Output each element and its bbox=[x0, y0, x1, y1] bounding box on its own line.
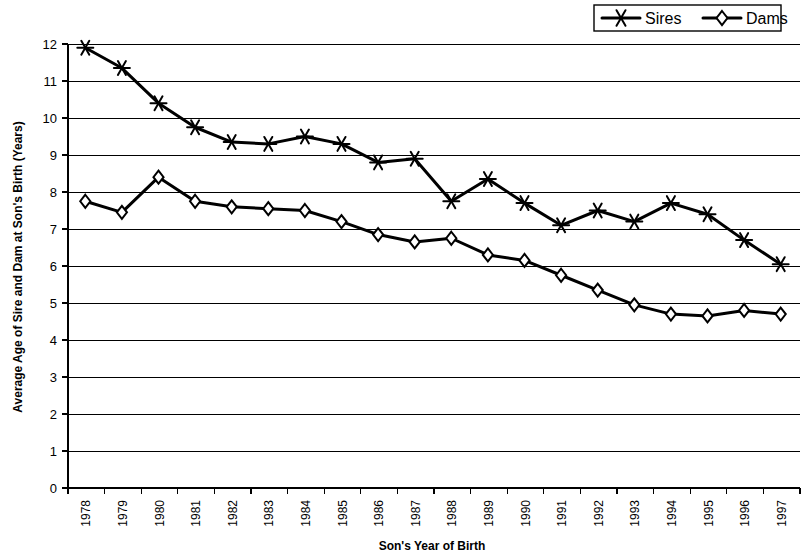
diamond-marker-shape bbox=[300, 204, 310, 217]
y-axis-title: Average Age of Sire and Dam at Son's Bir… bbox=[11, 121, 25, 412]
series-line-sires bbox=[85, 48, 780, 264]
x-tick-label: 1991 bbox=[555, 500, 569, 527]
diamond-marker-shape bbox=[666, 308, 676, 321]
y-tick-label: 3 bbox=[50, 370, 57, 385]
x-axis-title: Son's Year of Birth bbox=[379, 539, 486, 553]
series-markers-dams bbox=[80, 171, 786, 323]
y-tick-label: 0 bbox=[50, 481, 57, 496]
series-lines-group bbox=[85, 48, 780, 316]
data-point bbox=[702, 309, 712, 322]
x-tick-label: 1986 bbox=[372, 500, 386, 527]
y-tick-label: 8 bbox=[50, 185, 57, 200]
data-point bbox=[556, 269, 566, 282]
x-tick-label: 1992 bbox=[592, 500, 606, 527]
data-point bbox=[663, 196, 679, 210]
diamond-marker-shape bbox=[190, 195, 200, 208]
diamond-marker-shape bbox=[702, 309, 712, 322]
x-tick-label: 1982 bbox=[226, 500, 240, 527]
diamond-marker-shape bbox=[776, 308, 786, 321]
diamond-marker-shape bbox=[336, 215, 346, 228]
diamond-marker-shape bbox=[483, 248, 493, 261]
data-point bbox=[260, 137, 276, 151]
legend: Sires Dams bbox=[594, 5, 788, 31]
data-point bbox=[483, 248, 493, 261]
diamond-marker-shape bbox=[263, 202, 273, 215]
x-tick-label: 1985 bbox=[336, 500, 350, 527]
x-tick-label: 1996 bbox=[738, 500, 752, 527]
data-point bbox=[227, 200, 237, 213]
x-tick-label: 1987 bbox=[409, 500, 423, 527]
data-point bbox=[224, 135, 240, 149]
y-tick-label: 5 bbox=[50, 296, 57, 311]
data-point bbox=[300, 204, 310, 217]
x-tick-label: 1988 bbox=[445, 500, 459, 527]
x-tick-label: 1979 bbox=[116, 500, 130, 527]
y-tick-marks-group bbox=[62, 44, 68, 488]
data-point bbox=[190, 195, 200, 208]
x-tick-label: 1995 bbox=[702, 500, 716, 527]
y-tick-label: 1 bbox=[50, 444, 57, 459]
diamond-marker-shape bbox=[410, 235, 420, 248]
x-tick-label: 1984 bbox=[299, 500, 313, 527]
line-chart: 0123456789101112 19781979198019811982198… bbox=[0, 0, 805, 560]
data-point bbox=[626, 215, 642, 229]
diamond-marker-shape bbox=[373, 228, 383, 241]
y-tick-label: 10 bbox=[43, 111, 57, 126]
x-tick-label: 1993 bbox=[628, 500, 642, 527]
x-tick-marks-group bbox=[68, 488, 800, 494]
data-point bbox=[80, 195, 90, 208]
data-point bbox=[370, 155, 386, 169]
x-tick-labels-group: 1978197919801981198219831984198519861987… bbox=[79, 500, 788, 527]
data-point bbox=[334, 137, 350, 151]
x-tick-label: 1980 bbox=[153, 500, 167, 527]
x-tick-label: 1989 bbox=[482, 500, 496, 527]
data-point bbox=[590, 204, 606, 218]
data-point bbox=[77, 41, 93, 55]
diamond-marker-shape bbox=[80, 195, 90, 208]
diamond-marker-shape bbox=[446, 232, 456, 245]
data-point bbox=[519, 254, 529, 267]
data-point bbox=[593, 284, 603, 297]
series-line-dams bbox=[85, 177, 780, 316]
y-tick-label: 12 bbox=[43, 37, 57, 52]
x-tick-label: 1981 bbox=[189, 500, 203, 527]
data-point bbox=[776, 308, 786, 321]
x-tick-label: 1983 bbox=[262, 500, 276, 527]
data-point bbox=[336, 215, 346, 228]
y-tick-label: 7 bbox=[50, 222, 57, 237]
x-tick-label: 1994 bbox=[665, 500, 679, 527]
y-tick-label: 9 bbox=[50, 148, 57, 163]
diamond-marker-shape bbox=[629, 298, 639, 311]
diamond-marker-shape bbox=[593, 284, 603, 297]
y-tick-label: 6 bbox=[50, 259, 57, 274]
x-tick-label: 1997 bbox=[775, 500, 789, 527]
data-point bbox=[410, 235, 420, 248]
chart-container: 0123456789101112 19781979198019811982198… bbox=[0, 0, 805, 560]
gridlines-group bbox=[68, 44, 800, 451]
y-tick-label: 11 bbox=[44, 74, 58, 89]
series-markers-sires bbox=[77, 41, 788, 271]
y-tick-labels-group: 0123456789101112 bbox=[43, 37, 57, 496]
legend-label-dams: Dams bbox=[746, 10, 788, 27]
data-point bbox=[666, 308, 676, 321]
data-point bbox=[263, 202, 273, 215]
diamond-marker-shape bbox=[556, 269, 566, 282]
y-tick-label: 4 bbox=[50, 333, 57, 348]
x-tick-label: 1978 bbox=[79, 500, 93, 527]
data-point bbox=[446, 232, 456, 245]
diamond-marker-shape bbox=[519, 254, 529, 267]
data-point bbox=[739, 304, 749, 317]
data-point bbox=[373, 228, 383, 241]
legend-label-sires: Sires bbox=[645, 10, 681, 27]
diamond-marker-shape bbox=[227, 200, 237, 213]
data-point bbox=[297, 130, 313, 144]
y-tick-label: 2 bbox=[50, 407, 57, 422]
x-tick-label: 1990 bbox=[519, 500, 533, 527]
diamond-marker-shape bbox=[739, 304, 749, 317]
data-point bbox=[629, 298, 639, 311]
